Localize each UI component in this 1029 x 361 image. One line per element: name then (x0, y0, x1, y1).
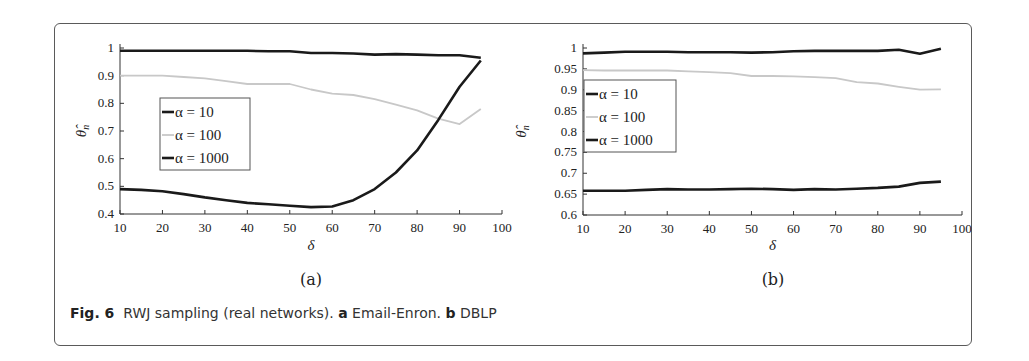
panel-b-x-tick-label: 20 (619, 221, 632, 236)
panel-a-x-tick-label: 80 (411, 220, 424, 235)
panel-a-y-axis-title: θ̂n (73, 124, 91, 137)
panel-a-x-tick-label: 60 (326, 220, 339, 235)
panel-b-legend-label-2: α = 1000 (599, 132, 653, 148)
panel-b-x-tick-label: 60 (787, 221, 800, 236)
panel-b-y-tick-label: 0.65 (554, 186, 577, 201)
panel-a-y-tick-label: 0.4 (98, 206, 115, 221)
panel-b-x-tick-label: 50 (745, 221, 758, 236)
panel-a-x-tick-label: 100 (492, 220, 512, 235)
panel-a-y-tick-label: 1 (108, 40, 115, 55)
panel-a-x-tick-label: 50 (283, 220, 296, 235)
panel-b-x-tick-label: 80 (871, 221, 884, 236)
panel-a-x-tick-label: 30 (198, 220, 211, 235)
panel-b-sublabel: (b) (762, 270, 785, 289)
panel-b-x-axis-title: δ (769, 237, 777, 253)
panel-a-sublabel: (a) (300, 270, 322, 289)
caption-part-a-text: Email-Enron. (352, 305, 441, 321)
panel-b-x-tick-label: 100 (952, 221, 972, 236)
panel-a-y-tick-label: 0.7 (98, 123, 115, 138)
panel-b-y-tick-label: 0.7 (561, 165, 578, 180)
panel-b-legend-label-1: α = 100 (599, 109, 645, 125)
panel-b-x-tick-label: 90 (913, 221, 926, 236)
panel-b-y-tick-label: 0.6 (561, 207, 578, 222)
panel-a-legend-label-0: α = 10 (175, 104, 214, 120)
panel-a-series-line-0 (120, 51, 481, 58)
panel-a-x-tick-label: 10 (114, 220, 127, 235)
panel-b-x-tick-label: 10 (577, 221, 590, 236)
figure-caption: Fig. 6 RWJ sampling (real networks). a E… (70, 305, 497, 321)
panel-a-y-axis-subscript: n (80, 125, 91, 130)
panel-b-y-axis-title: θ̂n (513, 124, 531, 137)
panel-a-legend-label-1: α = 100 (175, 127, 221, 143)
caption-part-b-letter: b (445, 305, 455, 321)
panel-b-y-tick-label: 0.95 (554, 61, 577, 76)
panel-b-y-tick-label: 0.9 (561, 82, 577, 97)
caption-part-b-text: DBLP (460, 305, 497, 321)
panel-a-x-tick-label: 20 (156, 220, 169, 235)
panel-a-x-tick-label: 40 (241, 220, 254, 235)
caption-fig-label: Fig. 6 (70, 305, 114, 321)
panel-b-y-tick-label: 0.75 (554, 144, 577, 159)
panel-a-x-axis-title: δ (308, 237, 316, 253)
panel-b-x-tick-label: 30 (661, 221, 674, 236)
panel-a-x-tick-label: 70 (368, 220, 381, 235)
panel-b-y-axis-subscript: n (520, 125, 531, 130)
caption-text: RWJ sampling (real networks). (123, 305, 333, 321)
panel-b-x-tick-label: 70 (829, 221, 842, 236)
caption-part-a-letter: a (338, 305, 347, 321)
panel-a-y-tick-label: 0.5 (98, 178, 114, 193)
panel-b-y-tick-label: 1 (571, 40, 578, 55)
panel-b-legend-label-0: α = 10 (599, 86, 638, 102)
panel-b-x-tick-label: 40 (703, 221, 716, 236)
panel-b-series-line-0 (583, 49, 941, 54)
panel-a-x-tick-label: 90 (453, 220, 466, 235)
panel-b-y-tick-label: 0.85 (554, 103, 577, 118)
panel-a-legend-label-2: α = 1000 (175, 150, 229, 166)
panel-b-series-line-2 (583, 182, 941, 191)
panel-a-y-tick-label: 0.6 (98, 151, 115, 166)
panel-a-y-tick-label: 0.8 (98, 95, 114, 110)
panel-b-y-tick-label: 0.8 (561, 124, 577, 139)
panel-a-y-tick-label: 0.9 (98, 68, 114, 83)
